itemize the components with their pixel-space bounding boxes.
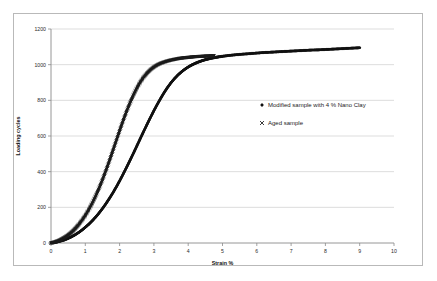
y-tick-labels-group: 020040060080010001200 — [34, 26, 46, 246]
y-tick-label-600: 600 — [37, 133, 46, 139]
x-tick-label-10: 10 — [391, 248, 397, 254]
x-tick-label-6: 6 — [255, 248, 258, 254]
x-tick-label-4: 4 — [187, 248, 190, 254]
y-tick-label-800: 800 — [37, 97, 46, 103]
data-point-marker — [260, 103, 264, 107]
chart-canvas: 020040060080010001200 012345678910 Modif… — [0, 0, 437, 281]
y-tick-label-200: 200 — [37, 204, 46, 210]
legend-item-1: Modified sample with 4 % Nano Clay — [260, 102, 366, 108]
y-tick-label-1000: 1000 — [34, 62, 46, 68]
y-tick-label-0: 0 — [43, 240, 46, 246]
series-2 — [50, 54, 216, 244]
legend-label-1: Modified sample with 4 % Nano Clay — [268, 102, 366, 108]
y-axis-title: Loading cycles — [15, 117, 21, 156]
x-tick-label-7: 7 — [290, 248, 293, 254]
x-tick-label-8: 8 — [324, 248, 327, 254]
x-axis-title: Strain % — [212, 260, 234, 266]
x-tick-label-1: 1 — [84, 248, 87, 254]
x-tick-label-0: 0 — [50, 248, 53, 254]
series-1 — [49, 46, 361, 244]
series-trace — [51, 56, 214, 243]
x-tick-label-3: 3 — [152, 248, 155, 254]
legend-item-2: Aged sample — [260, 120, 304, 126]
data-series-group — [49, 46, 361, 244]
chart-figure: 020040060080010001200 012345678910 Modif… — [0, 0, 437, 281]
x-tick-labels-group: 012345678910 — [50, 248, 397, 254]
y-tick-label-1200: 1200 — [34, 26, 46, 32]
x-tick-label-9: 9 — [358, 248, 361, 254]
y-tick-label-400: 400 — [37, 169, 46, 175]
legend-label-2: Aged sample — [268, 120, 304, 126]
chart-legend: Modified sample with 4 % Nano ClayAged s… — [260, 102, 366, 126]
x-tick-label-2: 2 — [118, 248, 121, 254]
x-tick-label-5: 5 — [221, 248, 224, 254]
data-point-marker — [260, 121, 264, 125]
